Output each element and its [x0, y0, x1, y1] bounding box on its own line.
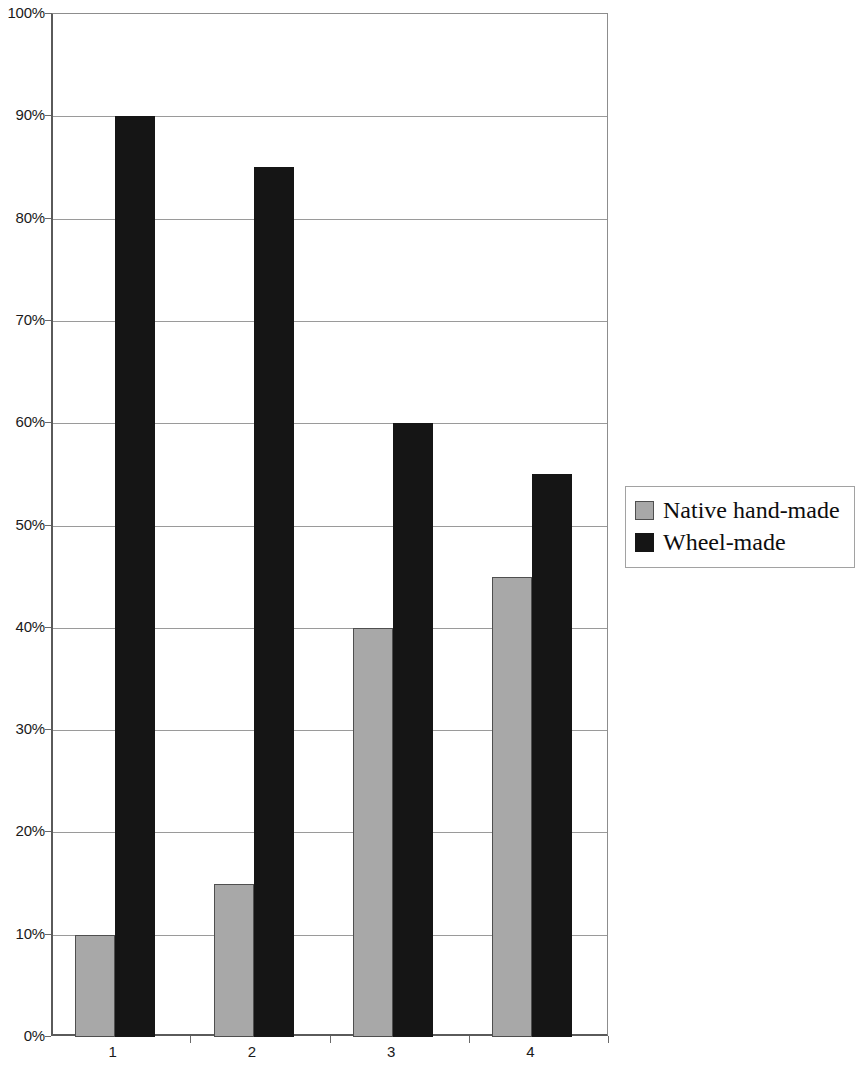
legend-swatch-icon	[635, 501, 654, 520]
y-axis-tick-mark	[45, 218, 51, 219]
y-axis-tick-mark	[45, 831, 51, 832]
y-axis-tick-label: 50%	[16, 516, 45, 533]
x-axis-tick-label: 4	[490, 1043, 570, 1060]
y-axis-tick-label: 30%	[16, 720, 45, 737]
bar	[353, 628, 393, 1037]
bar	[532, 474, 572, 1037]
bar	[254, 167, 294, 1037]
x-axis-tick-mark	[330, 1036, 331, 1043]
plot-area	[51, 13, 608, 1036]
y-axis-tick-mark	[45, 525, 51, 526]
y-axis-tick-mark	[45, 1036, 51, 1037]
y-axis-tick-mark	[45, 422, 51, 423]
x-axis-tick-label: 3	[351, 1043, 431, 1060]
y-axis-tick-label: 20%	[16, 822, 45, 839]
legend-item-label: Wheel-made	[663, 530, 786, 554]
legend-item-native-hand-made: Native hand-made	[635, 494, 845, 526]
y-axis-tick-mark	[45, 729, 51, 730]
y-axis: 0%10%20%30%40%50%60%70%80%90%100%	[0, 0, 45, 1072]
y-axis-tick-label: 40%	[16, 618, 45, 635]
y-axis-tick-label: 10%	[16, 925, 45, 942]
bar	[393, 423, 433, 1037]
y-axis-tick-mark	[45, 627, 51, 628]
y-axis-tick-mark	[45, 13, 51, 14]
bar	[75, 935, 115, 1037]
y-axis-tick-label: 70%	[16, 311, 45, 328]
y-axis-tick-label: 60%	[16, 413, 45, 430]
bar	[492, 577, 532, 1037]
y-axis-tick-mark	[45, 320, 51, 321]
y-axis-tick-label: 80%	[16, 209, 45, 226]
y-axis-tick-label: 90%	[16, 106, 45, 123]
legend-swatch-icon	[635, 533, 654, 552]
y-axis-tick-label: 0%	[24, 1027, 45, 1044]
y-axis-tick-label: 100%	[7, 4, 45, 21]
x-axis-tick-label: 1	[73, 1043, 153, 1060]
x-axis-tick-mark	[608, 1036, 609, 1043]
bar	[115, 116, 155, 1037]
legend: Native hand-made Wheel-made	[625, 486, 855, 568]
bar	[214, 884, 254, 1037]
y-axis-tick-mark	[45, 934, 51, 935]
x-axis-tick-label: 2	[212, 1043, 292, 1060]
legend-item-wheel-made: Wheel-made	[635, 526, 845, 558]
x-axis-tick-mark	[469, 1036, 470, 1043]
y-axis-tick-mark	[45, 115, 51, 116]
x-axis-tick-mark	[190, 1036, 191, 1043]
legend-item-label: Native hand-made	[663, 498, 840, 522]
